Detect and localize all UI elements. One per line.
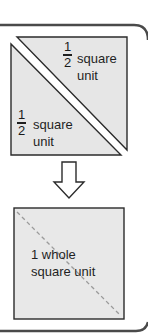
- diagram-canvas: [0, 0, 148, 334]
- lower-fraction: 1 2: [17, 109, 26, 137]
- down-arrow-icon: [54, 162, 84, 198]
- lower-label-line2: unit: [33, 135, 54, 149]
- upper-fraction: 1 2: [63, 41, 72, 69]
- lower-label-line1: square: [33, 118, 73, 132]
- frame-bottom: [0, 322, 148, 331]
- upper-label-line1: square: [77, 52, 117, 66]
- numerator: 1: [64, 41, 71, 53]
- whole-label-line1: 1 whole: [31, 248, 76, 262]
- denominator: 2: [18, 125, 25, 137]
- upper-label-line2: unit: [77, 69, 98, 83]
- denominator: 2: [64, 57, 71, 69]
- numerator: 1: [18, 109, 25, 121]
- whole-label-line2: square unit: [31, 265, 95, 279]
